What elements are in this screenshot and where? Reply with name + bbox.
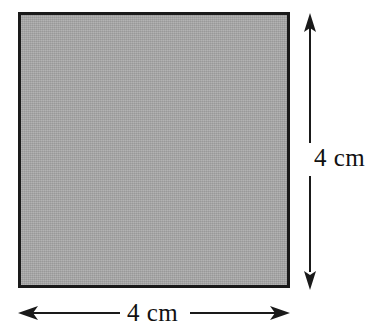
geometry-figure: 4 cm 4 cm (0, 0, 369, 334)
arrowhead-left-icon (18, 306, 38, 320)
height-dimension-label: 4 cm (314, 145, 365, 170)
arrowhead-down-icon (304, 271, 316, 290)
height-arrow-shaft-upper (309, 28, 311, 143)
height-arrow-shaft-lower (309, 176, 311, 272)
arrowhead-right-icon (270, 306, 290, 320)
arrowhead-up-icon (304, 13, 316, 32)
shaded-square (18, 12, 290, 288)
width-arrow-shaft-left (33, 312, 121, 314)
width-arrow-shaft-right (190, 312, 275, 314)
width-dimension-label: 4 cm (120, 300, 185, 325)
